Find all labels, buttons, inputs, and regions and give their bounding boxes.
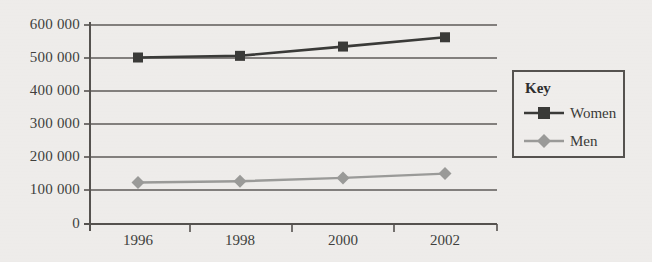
y-axis-label-500000: 500 000 <box>0 50 80 65</box>
legend-title: Key <box>525 80 551 97</box>
men-line <box>138 174 445 183</box>
x-axis-ticks <box>190 224 394 232</box>
legend-entry-women: Women <box>522 104 622 122</box>
x-axis-label-2000: 2000 <box>308 233 378 248</box>
data-point-1998 <box>234 175 247 188</box>
x-axis-label-1998: 1998 <box>205 233 275 248</box>
series-men <box>132 167 452 189</box>
women-line <box>138 37 445 57</box>
y-axis-label-200000: 200 000 <box>0 149 80 164</box>
legend-entry-men: Men <box>522 132 622 150</box>
data-point-1998 <box>235 51 245 61</box>
data-point-2000 <box>338 42 348 52</box>
data-point-2000 <box>337 171 350 184</box>
y-axis-label-600000: 600 000 <box>0 17 80 32</box>
data-point-1996 <box>133 53 143 63</box>
x-axis-label-1996: 1996 <box>103 233 173 248</box>
data-point-2002 <box>440 32 450 42</box>
data-point-1996 <box>132 176 145 189</box>
line-chart: 600 000 500 000 400 000 300 000 200 000 … <box>0 0 652 262</box>
axes <box>84 22 497 231</box>
data-point-2002 <box>439 167 452 180</box>
diamond-marker-icon <box>522 132 566 150</box>
men-markers <box>132 167 452 189</box>
y-axis-label-400000: 400 000 <box>0 83 80 98</box>
y-axis-label-0: 0 <box>0 216 80 231</box>
y-axis-label-100000: 100 000 <box>0 182 80 197</box>
chart-legend: Key Women Men <box>512 70 625 158</box>
legend-label-women: Women <box>570 105 616 122</box>
legend-label-men: Men <box>570 133 598 150</box>
x-axis-label-2002: 2002 <box>410 233 480 248</box>
square-marker-icon <box>522 104 566 122</box>
y-axis-label-300000: 300 000 <box>0 116 80 131</box>
